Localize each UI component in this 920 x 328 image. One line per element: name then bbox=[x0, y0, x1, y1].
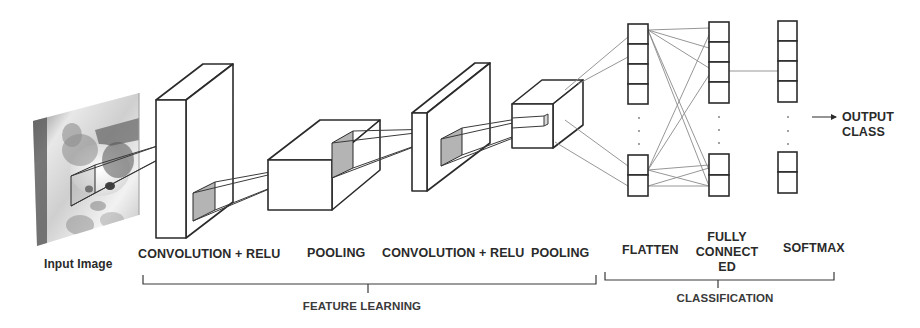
flatten-ellipsis bbox=[638, 117, 640, 145]
fully-connected-label-line-3: ED bbox=[696, 260, 759, 275]
conv1-label: CONVOLUTION + RELU bbox=[138, 247, 280, 261]
fully-connected-label: FULLY CONNECT ED bbox=[696, 230, 759, 275]
feature-learning-label: FEATURE LEARNING bbox=[303, 300, 421, 312]
fully-connected-vector-column bbox=[709, 22, 729, 196]
conv2-feature-map-block bbox=[412, 63, 490, 191]
softmax-label: SOFTMAX bbox=[783, 241, 845, 255]
input-image bbox=[33, 93, 139, 253]
fully-connected-label-line-2: CONNECT bbox=[696, 245, 759, 260]
feature-learning-brace bbox=[143, 275, 596, 293]
flatten-label: FLATTEN bbox=[622, 243, 679, 257]
pool1-label: POOLING bbox=[307, 246, 365, 260]
pool1-feature-map-block bbox=[268, 120, 380, 210]
softmax-vector-column bbox=[778, 21, 797, 193]
input-image-label: Input Image bbox=[44, 257, 112, 271]
connector-flatten-fc bbox=[648, 28, 709, 186]
fc-ellipsis bbox=[718, 116, 720, 144]
softmax-ellipsis bbox=[787, 116, 789, 145]
flatten-vector-column bbox=[628, 24, 648, 196]
pool2-label: POOLING bbox=[531, 246, 589, 260]
output-class-line-2: CLASS bbox=[842, 125, 894, 140]
classification-label: CLASSIFICATION bbox=[676, 292, 773, 304]
conv2-label: CONVOLUTION + RELU bbox=[382, 246, 524, 260]
fully-connected-label-line-1: FULLY bbox=[696, 230, 759, 245]
output-class-label: OUTPUT CLASS bbox=[842, 110, 894, 140]
cnn-diagram bbox=[0, 0, 920, 328]
output-class-line-1: OUTPUT bbox=[842, 110, 894, 125]
